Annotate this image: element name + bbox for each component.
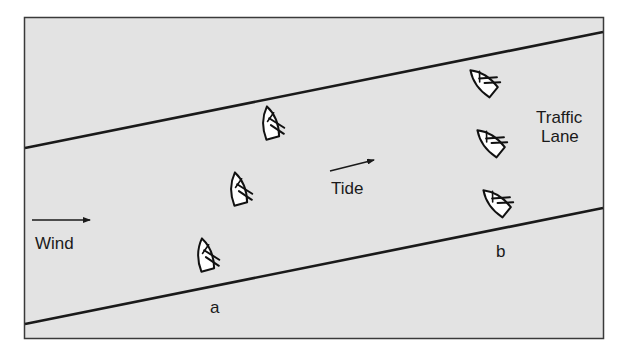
wind-label: Wind	[35, 234, 74, 253]
tide-label: Tide	[331, 179, 363, 198]
diagram-frame	[25, 18, 604, 339]
traffic-lane-label-line2: Lane	[541, 127, 579, 146]
boat-b-label: b	[496, 242, 505, 261]
boat-a-label: a	[210, 298, 220, 317]
traffic-lane-label-line1: Traffic	[536, 108, 583, 127]
traffic-lane-diagram: Wind Tide Traffic Lane a b	[0, 0, 624, 351]
